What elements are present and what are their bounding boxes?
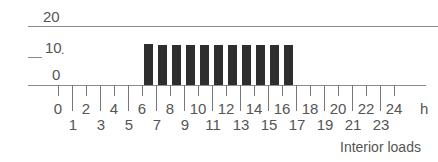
x-tick-label: 3 <box>97 117 105 132</box>
y-label-20: 20 <box>43 9 60 24</box>
x-tick <box>114 85 115 96</box>
bar <box>186 45 195 85</box>
x-tick <box>100 85 101 111</box>
x-tick-label: 2 <box>82 101 90 116</box>
x-tick-label: 11 <box>205 117 221 132</box>
x-tick <box>156 85 157 111</box>
x-tick-label: 16 <box>274 101 291 116</box>
x-tick-label: 5 <box>125 117 133 132</box>
x-tick <box>324 85 325 111</box>
x-tick <box>86 85 87 96</box>
x-tick-label: 4 <box>110 101 118 116</box>
y-label-10: 10 <box>45 40 62 55</box>
x-tick-label: 10 <box>190 101 207 116</box>
x-tick <box>212 85 213 111</box>
bar <box>256 45 265 85</box>
bar <box>228 45 237 85</box>
x-tick <box>366 85 367 96</box>
x-tick <box>226 85 227 96</box>
x-tick <box>282 85 283 96</box>
x-tick-label: 1 <box>69 117 77 132</box>
y-label-0: 0 <box>52 67 60 82</box>
x-tick <box>338 85 339 96</box>
x-tick-label: 9 <box>181 117 189 132</box>
x-tick <box>296 85 297 111</box>
x-tick-label: 19 <box>317 117 334 132</box>
x-tick <box>352 85 353 111</box>
x-unit-label: h <box>420 101 428 116</box>
x-tick-label: 0 <box>54 101 62 116</box>
x-tick-label: 22 <box>358 101 375 116</box>
bar <box>270 45 279 85</box>
x-tick <box>380 85 381 111</box>
x-tick <box>254 85 255 96</box>
x-tick-label: 6 <box>138 101 146 116</box>
bar <box>284 45 293 85</box>
bar <box>242 45 251 85</box>
bar <box>200 45 209 85</box>
dash-10 <box>28 57 42 58</box>
x-tick <box>268 85 269 111</box>
bar <box>172 45 181 85</box>
x-tick-label: 12 <box>218 101 235 116</box>
x-tick <box>198 85 199 96</box>
x-tick <box>72 85 73 111</box>
x-tick-label: 20 <box>330 101 347 116</box>
bar <box>158 45 167 85</box>
x-tick-label: 15 <box>261 117 278 132</box>
x-tick <box>170 85 171 96</box>
x-tick <box>310 85 311 96</box>
x-tick <box>128 85 129 111</box>
x-tick <box>240 85 241 111</box>
x-tick-label: 13 <box>233 117 250 132</box>
chart: 20 10 . 0 012345678910111213141516171819… <box>0 0 438 162</box>
x-tick-label: 21 <box>345 117 362 132</box>
x-tick-label: 14 <box>246 101 263 116</box>
line-20 <box>28 26 438 27</box>
bar <box>214 45 223 85</box>
x-tick-label: 8 <box>166 101 174 116</box>
x-tick-label: 24 <box>386 101 403 116</box>
x-tick-label: 18 <box>302 101 319 116</box>
x-tick-label: 23 <box>373 117 390 132</box>
x-tick <box>142 85 143 96</box>
x-tick <box>394 85 395 96</box>
chart-caption: Interior loads <box>340 139 421 155</box>
x-tick-label: 7 <box>153 117 161 132</box>
x-tick <box>58 85 59 96</box>
x-tick <box>184 85 185 111</box>
bar <box>144 44 153 85</box>
x-tick-label: 17 <box>289 117 306 132</box>
y-label-10-dot: . <box>61 44 64 56</box>
